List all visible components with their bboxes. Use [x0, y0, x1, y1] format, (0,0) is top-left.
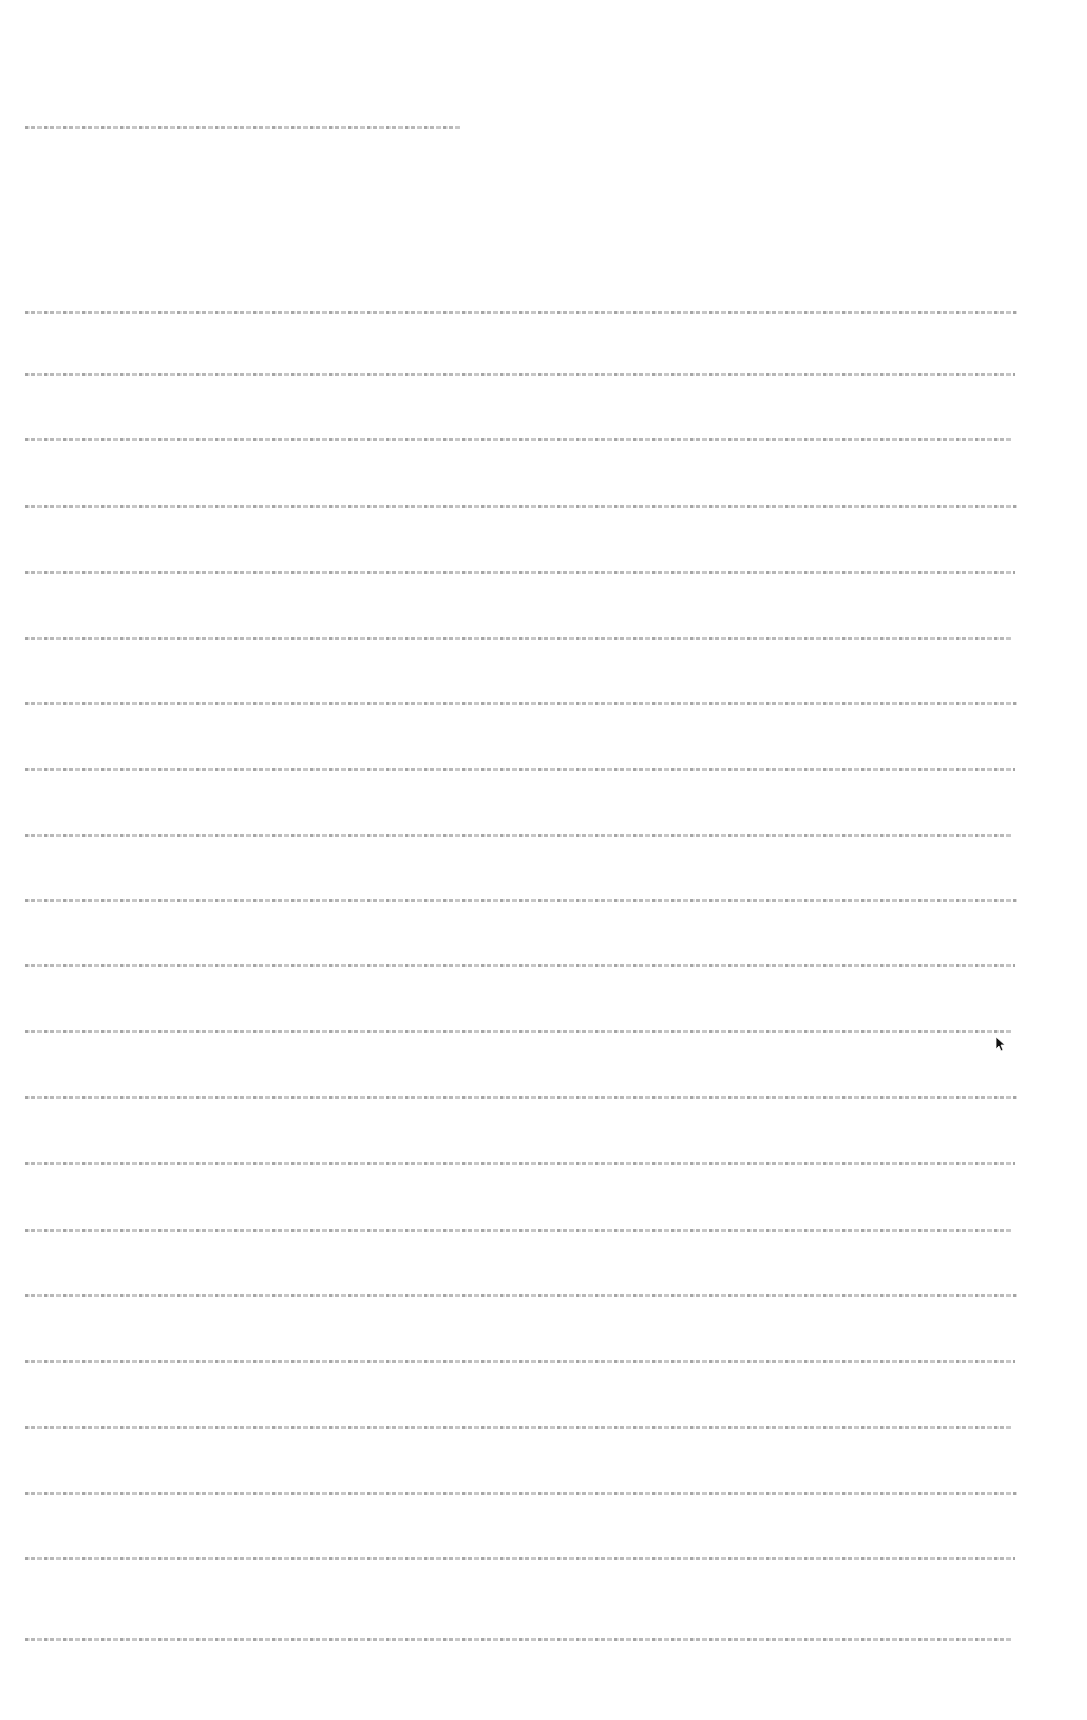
- text-ink: [25, 1426, 1013, 1429]
- body-text-line: [25, 571, 1015, 574]
- text-ink: [25, 1557, 1015, 1560]
- document-page: [0, 0, 1087, 1720]
- arrow-cursor-icon: [995, 1036, 1007, 1052]
- body-text-line: [25, 1360, 1015, 1363]
- text-ink: [25, 899, 1017, 902]
- body-text-line: [25, 373, 1015, 376]
- text-ink: [25, 311, 1017, 314]
- text-ink: [25, 702, 1017, 705]
- text-ink: [25, 438, 1013, 441]
- text-ink: [25, 834, 1013, 837]
- body-text-line: [25, 702, 1017, 705]
- body-text-line: [25, 1096, 1017, 1099]
- text-ink: [25, 1294, 1017, 1297]
- body-text-line: [25, 899, 1017, 902]
- text-ink: [25, 1229, 1013, 1232]
- body-text-line: [25, 505, 1017, 508]
- text-ink: [25, 1030, 1013, 1033]
- text-ink: [25, 964, 1015, 967]
- body-text-line: [25, 1557, 1015, 1560]
- body-text-line: [25, 1294, 1017, 1297]
- body-text-line: [25, 1638, 1013, 1641]
- text-ink: [25, 637, 1013, 640]
- text-ink: [25, 768, 1015, 771]
- body-text-line: [25, 1492, 1017, 1495]
- body-text-line: [25, 1229, 1013, 1232]
- body-text-line: [25, 438, 1013, 441]
- body-text-line: [25, 964, 1015, 967]
- body-text-line: [25, 311, 1017, 314]
- body-text-line: [25, 834, 1013, 837]
- header-text-line: [25, 126, 460, 129]
- body-text-line: [25, 637, 1013, 640]
- body-text-line: [25, 768, 1015, 771]
- body-text-line: [25, 1426, 1013, 1429]
- text-ink: [25, 1096, 1017, 1099]
- text-ink: [25, 373, 1015, 376]
- text-ink: [25, 1638, 1013, 1641]
- text-ink: [25, 1162, 1015, 1165]
- text-ink: [25, 126, 460, 129]
- body-text-line: [25, 1030, 1013, 1033]
- text-ink: [25, 505, 1017, 508]
- body-text-line: [25, 1162, 1015, 1165]
- text-ink: [25, 1360, 1015, 1363]
- text-ink: [25, 571, 1015, 574]
- text-ink: [25, 1492, 1017, 1495]
